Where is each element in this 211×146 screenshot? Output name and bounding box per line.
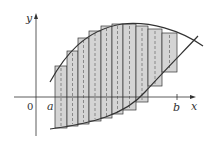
b-label: b: [173, 101, 180, 114]
area-between-curves-diagram: y x 0 a b: [0, 0, 211, 146]
a-label: a: [47, 100, 54, 113]
x-axis-label: x: [191, 100, 198, 113]
y-axis-label: y: [25, 12, 33, 25]
origin-label: 0: [27, 101, 33, 112]
y-axis-arrow-icon: [34, 13, 38, 19]
x-axis-arrow-icon: [190, 95, 196, 99]
